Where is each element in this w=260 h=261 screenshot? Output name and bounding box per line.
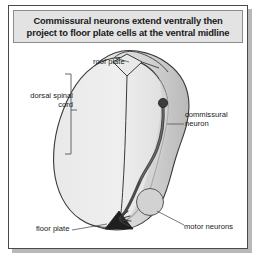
leader-motor-neurons (157, 211, 184, 225)
commissural-neuron-soma (158, 98, 167, 107)
label-roof-plate: roof plate (93, 58, 125, 67)
spinal-cord-body (54, 51, 189, 230)
figure-container: Commissural neurons extend ventrally the… (0, 0, 260, 261)
label-commissural-neuron: commissural neuron (185, 111, 247, 128)
motor-neuron-group (137, 189, 164, 216)
label-floor-plate: floor plate (36, 225, 69, 234)
label-dorsal-spinal-cord: dorsal spinal cord (29, 92, 73, 109)
figure-frame: Commissural neurons extend ventrally the… (8, 5, 248, 249)
label-motor-neurons: motor neurons (184, 223, 233, 232)
motor-neuron-pool (137, 189, 164, 216)
